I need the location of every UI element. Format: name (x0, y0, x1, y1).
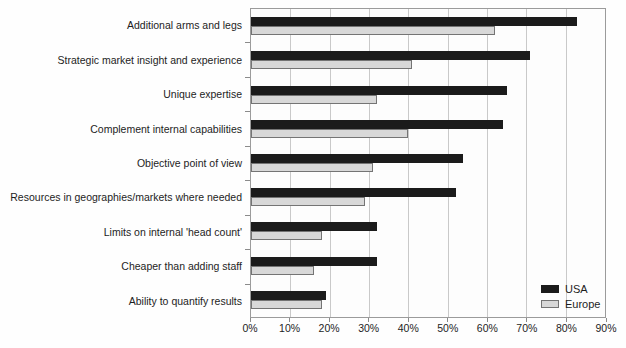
bar-usa (251, 51, 530, 60)
x-tick-label: 40% (398, 322, 419, 334)
x-tick-label: 20% (319, 322, 340, 334)
category-label: Resources in geographies/markets where n… (0, 180, 242, 214)
plot-area (250, 8, 606, 318)
x-tick-label: 10% (279, 322, 300, 334)
bar-group (251, 146, 605, 180)
category-label: Limits on internal 'head count' (0, 215, 242, 249)
bar-chart-figure: Additional arms and legsStrategic market… (0, 0, 626, 348)
bar-usa (251, 120, 503, 129)
x-tick-label: 80% (556, 322, 577, 334)
x-tick-label: 90% (595, 322, 616, 334)
legend-swatch-usa (541, 285, 559, 293)
category-label: Unique expertise (0, 77, 242, 111)
bar-usa (251, 17, 577, 26)
bar-group (251, 77, 605, 111)
bar-group (251, 112, 605, 146)
bar-usa (251, 222, 377, 231)
x-tick-label: 0% (242, 322, 257, 334)
category-label: Cheaper than adding staff (0, 249, 242, 283)
bar-usa (251, 257, 377, 266)
legend-swatch-europe (541, 300, 559, 308)
x-tick-label: 60% (477, 322, 498, 334)
bar-group (251, 249, 605, 283)
category-labels: Additional arms and legsStrategic market… (0, 8, 242, 318)
legend-label: USA (565, 283, 588, 295)
legend-entry-europe: Europe (541, 298, 600, 310)
bar-group (251, 9, 605, 43)
category-label: Complement internal capabilities (0, 111, 242, 145)
bar-europe (251, 60, 412, 69)
bar-europe (251, 129, 408, 138)
bar-europe (251, 95, 377, 104)
bar-europe (251, 163, 373, 172)
category-label: Ability to quantify results (0, 284, 242, 318)
bar-europe (251, 26, 495, 35)
x-axis-labels: 0%10%20%30%40%50%60%70%80%90% (250, 322, 606, 336)
bar-europe (251, 266, 314, 275)
bar-usa (251, 188, 456, 197)
bar-group (251, 214, 605, 248)
bar-europe (251, 197, 365, 206)
bar-europe (251, 300, 322, 309)
category-label: Additional arms and legs (0, 8, 242, 42)
bar-usa (251, 291, 326, 300)
bar-usa (251, 154, 463, 163)
x-tick-label: 50% (437, 322, 458, 334)
bar-group (251, 43, 605, 77)
bar-group (251, 180, 605, 214)
x-tick-label: 70% (516, 322, 537, 334)
legend-label: Europe (565, 298, 600, 310)
legend: USAEurope (541, 283, 600, 310)
bar-groups (251, 9, 605, 317)
category-label: Strategic market insight and experience (0, 42, 242, 76)
category-label: Objective point of view (0, 146, 242, 180)
bar-europe (251, 231, 322, 240)
legend-entry-usa: USA (541, 283, 600, 295)
bar-usa (251, 86, 507, 95)
x-tick-label: 30% (358, 322, 379, 334)
